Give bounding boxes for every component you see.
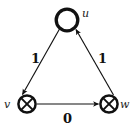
node-w: [100, 95, 117, 112]
edge-u-to-v: [23, 29, 60, 95]
node-u: [56, 9, 78, 31]
node-label-w: w: [120, 99, 129, 110]
node-label-u: u: [82, 8, 89, 19]
edge-w-to-u: [76, 30, 114, 96]
edge-line-u-v: [23, 29, 60, 95]
node-label-v: v: [4, 99, 10, 110]
edge-weight-v-w: 0: [63, 112, 72, 125]
graph-diagram: u v w 1 1 0: [0, 0, 136, 133]
node-u-circle: [56, 9, 78, 31]
edge-weight-w-u: 1: [98, 52, 107, 65]
node-v: [18, 95, 35, 112]
edge-weight-u-v: 1: [31, 52, 40, 65]
edge-line-w-u: [76, 30, 114, 96]
